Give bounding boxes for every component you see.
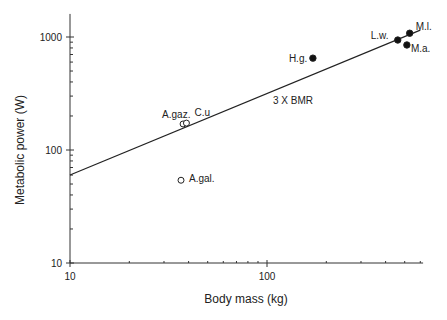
y-axis-label: Metabolic power (W) [13, 95, 27, 205]
x-tick-label: 100 [259, 271, 276, 282]
y-tick-label: 1000 [40, 32, 63, 43]
axis-ticks: 10100100010100 [40, 32, 421, 282]
open-point [178, 177, 184, 183]
point-label: A.gaz. [162, 109, 190, 120]
bmr-line [70, 30, 420, 175]
point-label: H.g. [289, 53, 307, 64]
x-axis-label: Body mass (kg) [204, 292, 287, 306]
point-label: L.w. [371, 30, 389, 41]
open-point [183, 120, 189, 126]
reference-line-label: 3 X BMR [273, 95, 313, 106]
y-tick-label: 10 [51, 258, 63, 269]
scatter-chart: 10100100010100 A.gaz.C.uA.gal.H.g.L.w.M.… [0, 0, 447, 320]
reference-line [70, 30, 420, 175]
filled-point [395, 37, 401, 43]
y-tick-label: 100 [45, 145, 62, 156]
filled-point [404, 42, 410, 48]
point-label: A.gal. [189, 173, 215, 184]
point-label: C.u [194, 107, 210, 118]
filled-point [406, 30, 412, 36]
point-label: M.l. [416, 21, 432, 32]
filled-point [310, 55, 316, 61]
x-tick-label: 10 [64, 271, 76, 282]
point-label: M.a. [411, 43, 430, 54]
